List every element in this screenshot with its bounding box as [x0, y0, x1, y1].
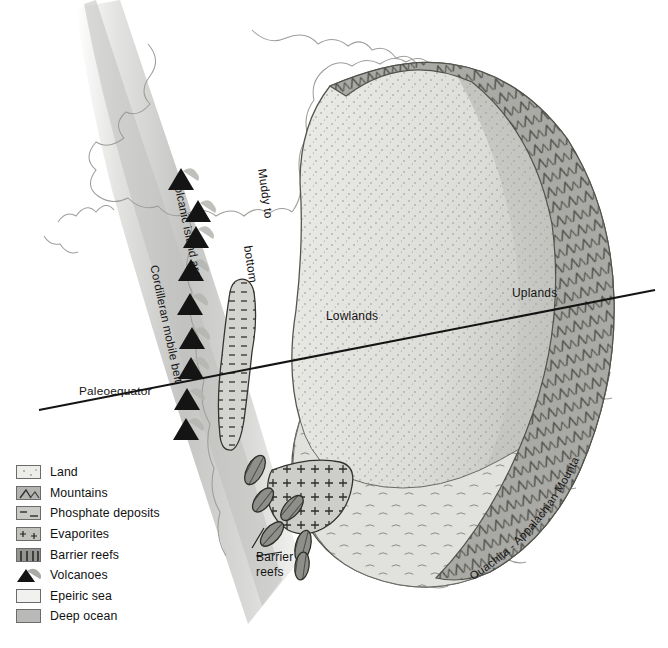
barrier-reefs-label-line2: reefs — [256, 566, 284, 578]
legend-item-volcanoes: Volcanoes — [16, 565, 216, 586]
land-swatch — [16, 465, 41, 479]
legend-item-deep-ocean: Deep ocean — [16, 606, 216, 627]
legend-label: Volcanoes — [50, 569, 108, 581]
map-legend: LandMountainsPhosphate depositsEvaporite… — [16, 462, 216, 627]
mountains-swatch — [16, 486, 41, 500]
legend-label: Epeiric sea — [50, 590, 112, 602]
evaporites-swatch — [16, 527, 41, 541]
legend-label: Land — [50, 466, 78, 478]
volcano-icon — [16, 567, 41, 583]
epeiric-sea-swatch — [16, 589, 41, 603]
lowlands-label: Lowlands — [326, 310, 378, 322]
barrier-reefs-swatch — [16, 548, 41, 562]
map-figure: Ouachita - Appalachian Mountains Lowland… — [0, 0, 668, 648]
legend-label: Barrier reefs — [50, 549, 119, 561]
uplands-label: Uplands — [512, 287, 557, 299]
legend-item-epeiric-sea: Epeiric sea — [16, 586, 216, 607]
legend-label: Mountains — [50, 487, 108, 499]
legend-item-phosphate-deposits: Phosphate deposits — [16, 503, 216, 524]
legend-label: Evaporites — [50, 528, 109, 540]
phosphate-swatch — [16, 506, 41, 520]
legend-label: Deep ocean — [50, 610, 117, 622]
barrier-reefs-label-line1: Barrier — [256, 551, 293, 563]
legend-item-mountains: Mountains — [16, 483, 216, 504]
paleoequator-label: Paleoequator — [79, 386, 152, 398]
deep-ocean-swatch — [16, 609, 41, 623]
legend-item-land: Land — [16, 462, 216, 483]
legend-label: Phosphate deposits — [50, 507, 160, 519]
legend-item-barrier-reefs: Barrier reefs — [16, 544, 216, 565]
legend-item-evaporites: Evaporites — [16, 524, 216, 545]
